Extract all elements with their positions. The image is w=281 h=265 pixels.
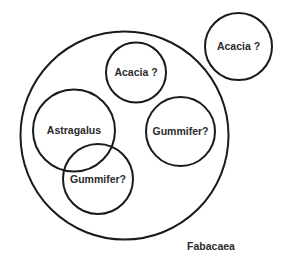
label-fabacaea: Fabacaea xyxy=(187,240,235,252)
label-acacia-outer: Acacia ? xyxy=(217,40,260,52)
venn-diagram-canvas: Acacia ? Acacia ? Astragalus Gummifer? G… xyxy=(0,0,281,265)
venn-diagram-svg: Acacia ? Acacia ? Astragalus Gummifer? G… xyxy=(0,0,281,265)
label-astragalus: Astragalus xyxy=(47,124,101,136)
label-gummifer-right: Gummifer? xyxy=(152,125,208,137)
label-acacia-inner: Acacia ? xyxy=(114,66,157,78)
label-gummifer-lower: Gummifer? xyxy=(70,173,126,185)
